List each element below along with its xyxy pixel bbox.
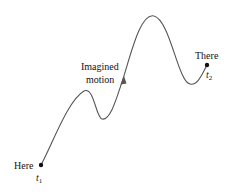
start-label: Here [14,160,34,171]
end-label: There [195,50,219,61]
trajectory-curve [41,16,207,165]
direction-arrow-icon [121,76,127,85]
path-label-line2: motion [86,74,114,85]
imagined-motion-diagram: Here t1 Imagined motion There t2 [0,0,233,192]
path-label-line1: Imagined [81,61,119,72]
start-point [39,163,43,167]
start-time-label: t1 [36,172,43,185]
end-time-label: t2 [206,69,213,82]
end-point [205,63,209,67]
